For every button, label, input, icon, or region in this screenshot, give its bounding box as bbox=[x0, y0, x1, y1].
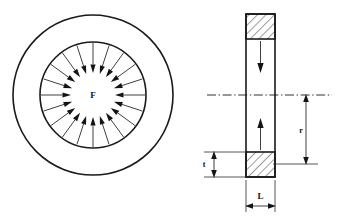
interior-arrow-up bbox=[257, 118, 263, 150]
force-arrow-head bbox=[81, 116, 86, 125]
force-arrow-head bbox=[90, 65, 95, 74]
thickness-dimension: t bbox=[203, 151, 248, 178]
force-arrow-head bbox=[115, 92, 124, 97]
force-arrow-head bbox=[106, 69, 113, 77]
cross-section-view bbox=[207, 14, 332, 177]
force-arrow-head bbox=[100, 65, 105, 74]
force-arrow-shaft bbox=[62, 120, 75, 137]
force-arrow-shaft bbox=[102, 124, 109, 144]
force-arrow-shaft bbox=[118, 113, 135, 126]
force-arrow-shaft bbox=[77, 46, 84, 66]
radius-dimension: r bbox=[273, 94, 318, 165]
bottom-flange-hatch-fill bbox=[246, 152, 275, 177]
radius-label: r bbox=[299, 126, 303, 135]
engineering-drawing-canvas: F bbox=[0, 0, 338, 223]
technical-drawing-figure: F bbox=[0, 0, 338, 223]
force-arrow-shaft bbox=[44, 104, 64, 111]
force-arrow-shaft bbox=[77, 124, 84, 144]
length-label: L bbox=[257, 191, 263, 201]
thickness-label: t bbox=[203, 160, 206, 169]
force-arrow-shaft bbox=[122, 79, 142, 86]
force-arrow-shaft bbox=[118, 64, 135, 77]
force-arrow-shaft bbox=[51, 113, 68, 126]
force-arrow-shaft bbox=[51, 64, 68, 77]
force-arrow-shaft bbox=[44, 79, 64, 86]
force-arrow-shaft bbox=[122, 104, 142, 111]
top-flange-hatch-fill bbox=[246, 14, 275, 39]
force-arrow-shaft bbox=[102, 46, 109, 66]
force-arrow-shaft bbox=[111, 53, 124, 70]
force-arrow-head bbox=[63, 92, 72, 97]
force-arrow-head bbox=[67, 108, 75, 115]
force-arrow-head bbox=[114, 83, 123, 88]
length-dimension: L bbox=[245, 180, 276, 212]
force-arrow-head bbox=[111, 75, 119, 82]
force-arrow-head bbox=[114, 102, 123, 107]
force-arrow-head bbox=[63, 83, 72, 88]
force-arrow-head bbox=[111, 108, 119, 115]
force-arrow-head bbox=[67, 75, 75, 82]
force-arrow-head bbox=[106, 113, 113, 121]
force-arrow-head bbox=[63, 102, 72, 107]
force-arrow-head bbox=[73, 113, 80, 121]
force-arrow-head bbox=[73, 69, 80, 77]
force-arrow-head bbox=[81, 65, 86, 74]
force-arrow-shaft bbox=[111, 120, 124, 137]
force-arrow-head bbox=[90, 117, 95, 126]
plan-view: F bbox=[13, 15, 173, 175]
interior-arrow-down bbox=[257, 41, 263, 73]
force-arrow-shaft bbox=[62, 53, 75, 70]
force-arrow-head bbox=[100, 116, 105, 125]
force-label: F bbox=[90, 90, 96, 100]
